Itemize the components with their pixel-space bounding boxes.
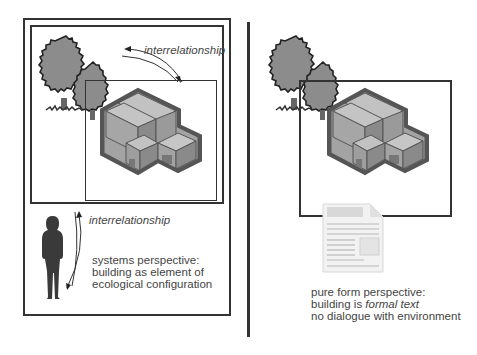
systems-caption-line1: systems perspective: <box>92 254 199 267</box>
panel-divider <box>247 22 250 337</box>
side-interrelationship-label: interrelationship <box>89 214 170 227</box>
top-interrelationship-label: interrelationship <box>144 44 225 57</box>
isometric-building-icon <box>323 89 438 189</box>
formal-text-emphasis: formal text <box>365 298 419 310</box>
systems-caption-line2: building as element of <box>92 266 204 279</box>
double-arrow-icon <box>64 210 84 290</box>
person-silhouette-icon <box>40 214 66 300</box>
form-caption-line1: pure form perspective: <box>311 286 425 299</box>
form-caption-line2-prefix: building is <box>311 298 365 310</box>
systems-caption-line3: ecological configuration <box>92 278 212 291</box>
document-icon <box>322 203 384 273</box>
isometric-building-icon <box>96 89 211 189</box>
form-caption-line2: building is formal text <box>311 298 419 311</box>
form-caption-line3: no dialogue with environment <box>311 310 461 323</box>
